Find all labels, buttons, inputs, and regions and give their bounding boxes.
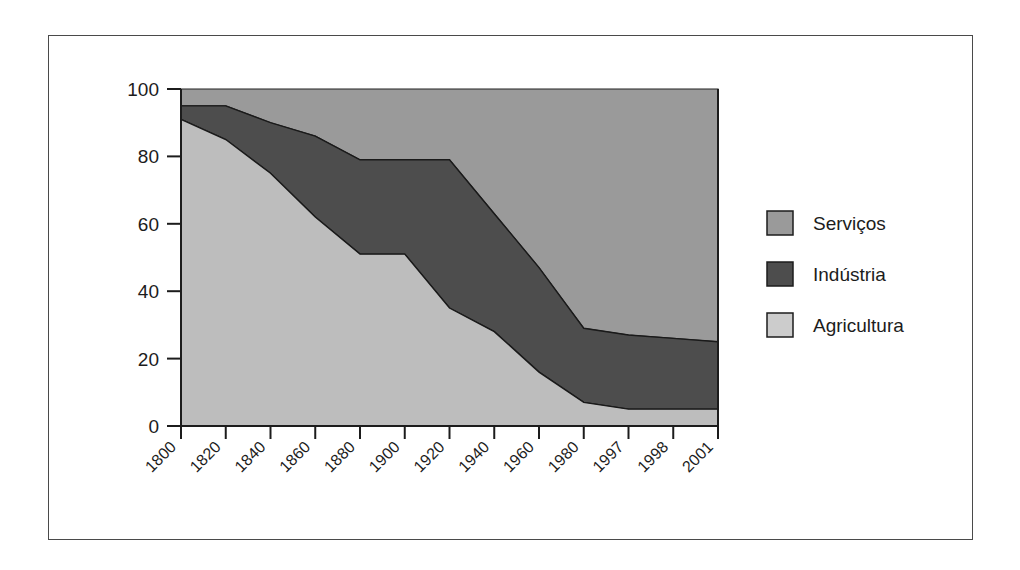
x-tick-label: 2001 — [679, 438, 716, 475]
y-axis-ticks-group: 020406080100 — [127, 79, 181, 437]
figure-frame: 020406080100 180018201840186018801900192… — [48, 35, 973, 540]
legend-swatch — [767, 211, 793, 235]
x-tick-label: 1980 — [545, 438, 582, 475]
x-tick-label: 1820 — [187, 438, 224, 475]
y-tick-label: 0 — [148, 416, 159, 437]
legend-swatch — [767, 262, 793, 286]
y-tick-label: 20 — [138, 349, 159, 370]
y-tick-label: 100 — [127, 79, 159, 100]
legend-label: Indústria — [813, 264, 886, 285]
x-tick-label: 1840 — [231, 438, 268, 475]
legend: ServiçosIndústriaAgricultura — [767, 211, 904, 337]
y-tick-label: 80 — [138, 146, 159, 167]
x-tick-label: 1940 — [455, 438, 492, 475]
legend-label: Agricultura — [813, 315, 904, 336]
x-tick-label: 1900 — [366, 438, 403, 475]
x-axis-ticks-group: 1800182018401860188019001920194019601980… — [142, 426, 718, 475]
x-tick-label: 1960 — [500, 438, 537, 475]
area-series-group — [181, 89, 718, 426]
y-tick-label: 40 — [138, 281, 159, 302]
x-tick-label: 1998 — [634, 438, 671, 475]
x-tick-label: 1920 — [410, 438, 447, 475]
y-tick-label: 60 — [138, 214, 159, 235]
legend-label: Serviços — [813, 213, 886, 234]
x-tick-label: 1800 — [142, 438, 179, 475]
stacked-area-chart: 020406080100 180018201840186018801900192… — [49, 36, 974, 541]
legend-swatch — [767, 313, 793, 337]
x-tick-label: 1997 — [589, 438, 626, 475]
x-tick-label: 1860 — [276, 438, 313, 475]
x-tick-label: 1880 — [321, 438, 358, 475]
